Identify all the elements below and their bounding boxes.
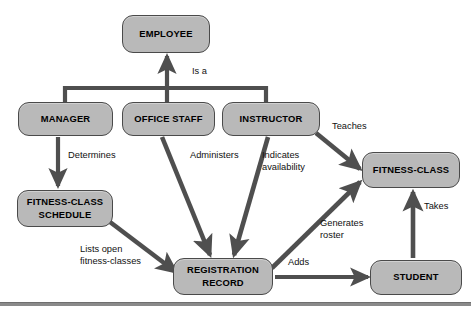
node-employee-label: EMPLOYEE bbox=[135, 28, 196, 41]
edge-label-lists-open-fitness-classes: Lists open fitness-classes bbox=[80, 244, 141, 268]
edge-label-is-a: Is a bbox=[192, 66, 207, 78]
edge-label-administers: Administers bbox=[190, 150, 239, 162]
edge-label-adds: Adds bbox=[288, 257, 309, 269]
footer-divider bbox=[0, 302, 471, 306]
node-employee[interactable]: EMPLOYEE bbox=[122, 15, 210, 53]
node-fitness-class-label: FITNESS-CLASS bbox=[369, 164, 453, 177]
edge-teaches bbox=[316, 133, 360, 169]
edge-label-indicates-availability: Indicates availability bbox=[262, 150, 305, 174]
edge-label-generates-roster: Generates roster bbox=[320, 218, 363, 242]
node-office-staff-label: OFFICE STAFF bbox=[130, 113, 206, 126]
edge-label-teaches: Teaches bbox=[332, 121, 367, 133]
edge-is-a bbox=[65, 56, 266, 103]
edge-label-takes: Takes bbox=[424, 201, 448, 213]
node-fitness-class-schedule-label: FITNESS-CLASS SCHEDULE bbox=[23, 196, 107, 221]
node-fitness-class[interactable]: FITNESS-CLASS bbox=[362, 152, 460, 188]
node-registration-record[interactable]: REGISTRATION RECORD bbox=[173, 258, 273, 295]
node-manager-label: MANAGER bbox=[37, 113, 95, 126]
node-student[interactable]: STUDENT bbox=[370, 260, 462, 295]
node-student-label: STUDENT bbox=[389, 271, 442, 284]
edge-label-determines: Determines bbox=[68, 150, 116, 162]
node-instructor-label: INSTRUCTOR bbox=[236, 113, 307, 126]
node-instructor[interactable]: INSTRUCTOR bbox=[222, 102, 320, 136]
class-diagram-canvas: EMPLOYEE MANAGER OFFICE STAFF INSTRUCTOR… bbox=[0, 0, 471, 312]
node-manager[interactable]: MANAGER bbox=[18, 102, 113, 136]
node-fitness-class-schedule[interactable]: FITNESS-CLASS SCHEDULE bbox=[17, 190, 113, 227]
node-registration-record-label: REGISTRATION RECORD bbox=[183, 264, 263, 289]
node-office-staff[interactable]: OFFICE STAFF bbox=[122, 102, 215, 136]
